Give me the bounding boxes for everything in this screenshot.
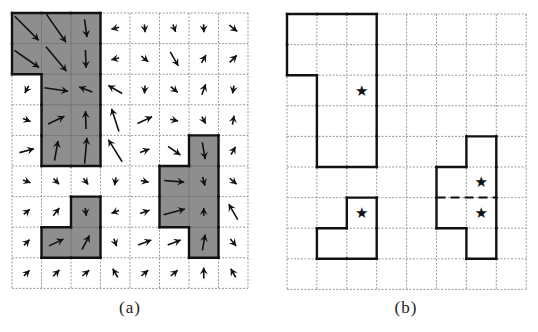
panel-b-caption: (b)	[376, 298, 436, 318]
centroid-markers: ★★★★	[355, 82, 488, 222]
star-icon: ★	[475, 204, 488, 222]
panel-b-region-outlines: ★★★★	[0, 0, 538, 332]
panel-a-caption: (a)	[100, 298, 160, 318]
star-icon: ★	[355, 82, 368, 100]
star-icon: ★	[475, 173, 488, 191]
star-icon: ★	[355, 204, 368, 222]
figure: ★★★★ (a) (b)	[0, 0, 538, 332]
grid-lines	[287, 14, 526, 289]
